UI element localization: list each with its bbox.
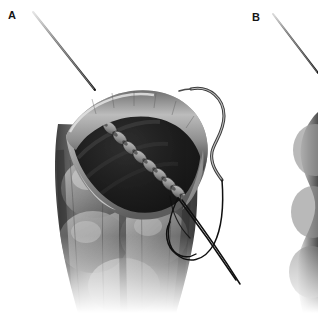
figure-root: A: [0, 0, 318, 313]
panel-b: B: [245, 0, 318, 313]
straight-needle: [273, 14, 318, 73]
panel-b-illustration: [245, 0, 318, 313]
straight-needle: [33, 12, 95, 90]
bowel-body: [285, 100, 318, 313]
panel-a: A: [0, 0, 245, 313]
panel-a-illustration: [0, 0, 245, 313]
